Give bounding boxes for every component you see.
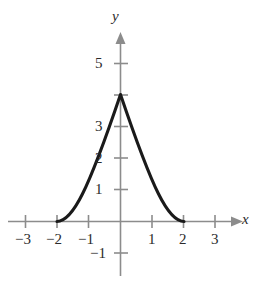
x-tick-label-2: 2 <box>179 232 187 247</box>
parabola-figure: x y −3 −2 −1 1 2 3 5 3 2 1 −1 <box>0 0 259 283</box>
x-tick-label-3: 3 <box>211 232 219 247</box>
coordinate-plot <box>0 0 259 283</box>
y-tick-label-2: 2 <box>95 151 103 166</box>
x-tick-label-minus-3: −3 <box>15 232 31 247</box>
y-axis-label: y <box>112 9 119 24</box>
x-tick-label-1: 1 <box>148 232 156 247</box>
y-axis-arrowhead <box>116 32 126 44</box>
y-tick-label-minus-1: −1 <box>90 246 106 261</box>
x-axis-label: x <box>242 212 249 227</box>
y-tick-label-1: 1 <box>95 182 103 197</box>
x-tick-label-minus-2: −2 <box>46 232 62 247</box>
y-tick-label-3: 3 <box>95 119 103 134</box>
y-tick-label-5: 5 <box>95 56 103 71</box>
